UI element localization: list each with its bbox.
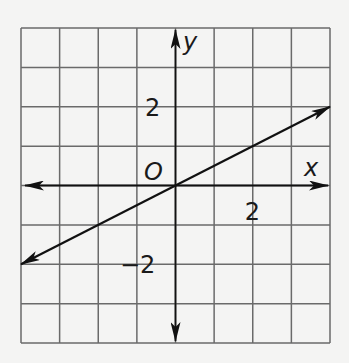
x-axis-label: x xyxy=(303,154,319,182)
tick-labels: 22−2 xyxy=(120,94,260,280)
y-tick-label: −2 xyxy=(120,251,155,279)
y-tick-label: 2 xyxy=(145,94,160,122)
y-axis-label: y xyxy=(182,28,198,56)
coordinate-plane: y x O 22−2 xyxy=(0,0,349,363)
x-tick-label: 2 xyxy=(245,198,260,226)
origin-label: O xyxy=(144,158,163,186)
